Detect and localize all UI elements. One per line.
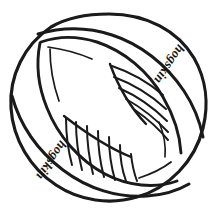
ball-illustration: hogskin hogskin bbox=[0, 0, 216, 216]
artboard: hogskin hogskin bbox=[0, 0, 216, 216]
